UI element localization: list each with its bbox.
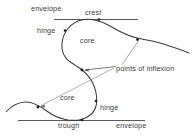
inflexion-point-marker-left bbox=[37, 106, 40, 109]
leader-arrow-middle-inflexion bbox=[84, 68, 89, 71]
leader-line-right-inflexion bbox=[122, 41, 139, 65]
inflexion-point-marker-right bbox=[136, 38, 139, 41]
label-hinge-top: hinge bbox=[37, 27, 55, 35]
trough-point-marker bbox=[81, 119, 84, 122]
crest-point-marker bbox=[98, 18, 101, 21]
hinge-point-marker-bottom bbox=[95, 100, 98, 103]
leader-line-left-inflexion bbox=[41, 68, 114, 106]
label-envelope-bottom: envelope bbox=[116, 122, 146, 130]
label-hinge-bottom: hinge bbox=[100, 104, 118, 112]
fold-diagram-canvas: envelope crest hinge core points of infl… bbox=[0, 0, 196, 140]
label-trough: trough bbox=[58, 122, 79, 130]
label-core-bottom: core bbox=[60, 94, 75, 102]
label-points-of-inflexion: points of inflexion bbox=[116, 65, 174, 73]
label-crest: crest bbox=[85, 9, 101, 17]
inflexion-point-marker-middle bbox=[81, 69, 84, 72]
label-core-top: core bbox=[80, 37, 95, 45]
hinge-point-marker-top bbox=[64, 29, 67, 32]
label-envelope-top: envelope bbox=[31, 5, 61, 13]
